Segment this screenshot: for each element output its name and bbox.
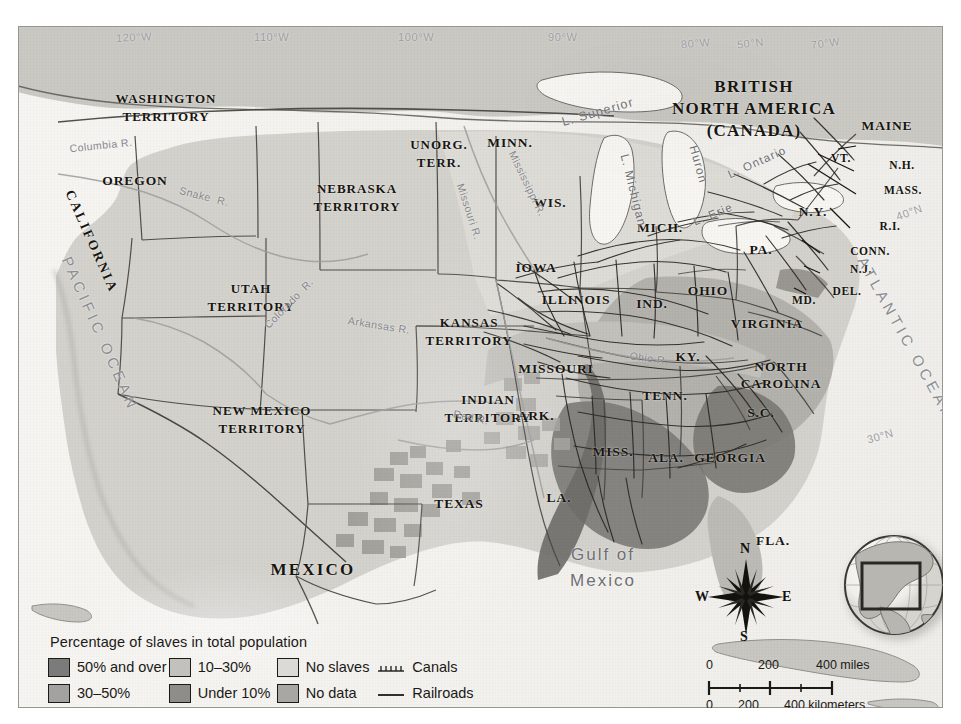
legend-label-50-and-over: 50% and over: [77, 659, 166, 675]
legend-label-no-data: No data: [306, 685, 357, 701]
swatch-under-10-icon: [169, 684, 191, 703]
swatch-no-data-icon: [277, 684, 299, 703]
legend-item-10-30: 10–30%: [169, 656, 277, 678]
canal-line-icon: [377, 661, 405, 673]
scale-bar: 0 200 400 miles 0 200 400 kilometers: [706, 658, 906, 708]
legend-label-canals: Canals: [412, 659, 457, 675]
globe-icon: [836, 529, 943, 647]
map-page: 120°W 110°W 100°W 90°W 80°W 70°W 50°N 40…: [0, 0, 961, 724]
legend-item-railroads: Railroads: [377, 682, 478, 704]
swatch-30-50-icon: [48, 684, 70, 703]
legend-item-no-data: No data: [277, 682, 378, 704]
scale-miles-tick-0: 0: [706, 658, 713, 672]
compass-label-west: W: [695, 589, 709, 605]
scale-km-tick-200: 200: [738, 698, 759, 708]
legend-label-30-50: 30–50%: [77, 685, 130, 701]
compass-label-east: E: [782, 589, 791, 605]
legend-item-canals: Canals: [377, 656, 478, 678]
legend-title: Percentage of slaves in total population: [50, 634, 478, 650]
legend-label-under-10: Under 10%: [198, 685, 271, 701]
legend-item-50-and-over: 50% and over: [48, 656, 169, 678]
compass-label-north: N: [740, 541, 750, 557]
legend-label-railroads: Railroads: [412, 685, 473, 701]
legend-label-no-slaves: No slaves: [306, 659, 370, 675]
map-geography-layer: [18, 26, 943, 708]
scale-miles-label: 400 miles: [816, 658, 870, 672]
locator-globe-inset: [836, 529, 943, 647]
map-legend: Percentage of slaves in total population…: [48, 634, 478, 708]
scale-miles-tick-200: 200: [758, 658, 779, 672]
compass-label-south: S: [740, 629, 748, 645]
swatch-no-slaves-icon: [277, 658, 299, 677]
historical-map: 120°W 110°W 100°W 90°W 80°W 70°W 50°N 40…: [18, 26, 943, 708]
scale-bar-graphic: [706, 676, 906, 700]
compass-rose: N S W E: [698, 541, 794, 646]
legend-label-10-30: 10–30%: [198, 659, 251, 675]
swatch-50-and-over-icon: [48, 658, 70, 677]
legend-item-no-slaves: No slaves: [277, 656, 378, 678]
scale-km-tick-0: 0: [706, 698, 713, 708]
railroad-line-icon: [377, 687, 405, 699]
scale-km-label: 400 kilometers: [784, 698, 865, 708]
legend-item-30-50: 30–50%: [48, 682, 169, 704]
legend-item-under-10: Under 10%: [169, 682, 277, 704]
swatch-10-30-icon: [169, 658, 191, 677]
